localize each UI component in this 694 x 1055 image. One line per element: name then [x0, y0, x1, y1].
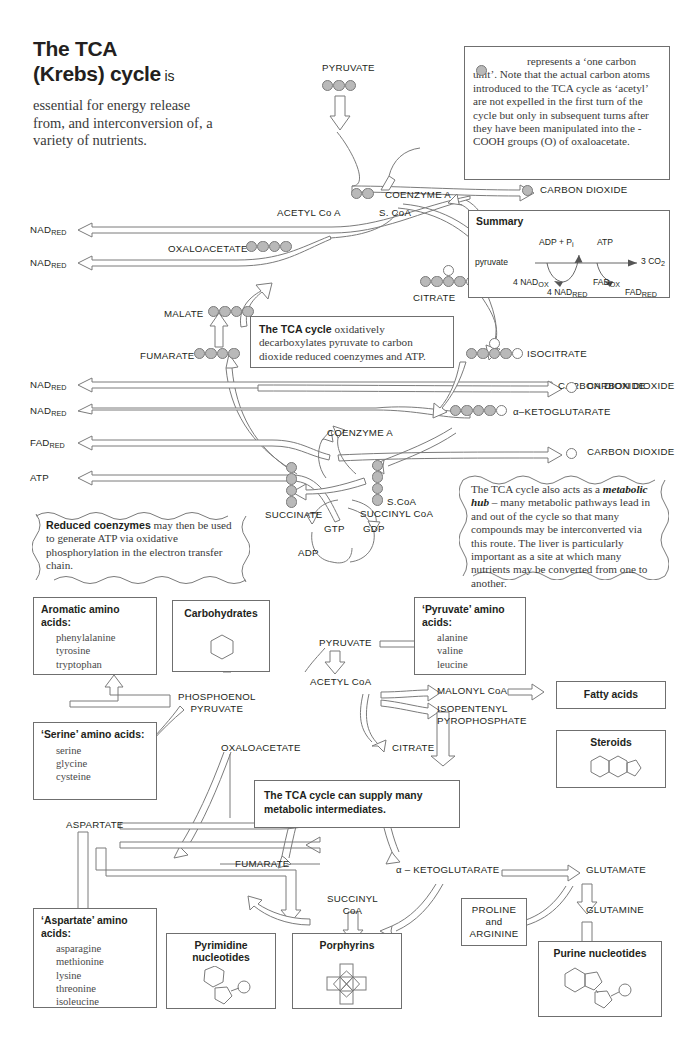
- label-malate: MALATE: [164, 308, 204, 319]
- summary-adp: ADP + Pi: [539, 237, 574, 249]
- decarb-note-bold: The TCA cycle: [259, 323, 332, 335]
- carbons-fumarate: [194, 348, 240, 359]
- steroids-head: Steroids: [557, 731, 665, 749]
- label-co2-mid-text: CARBON DIOXIDE: [587, 380, 674, 391]
- label-s-coa: S.CoA: [387, 496, 416, 507]
- metabolic-hub-note-box: The TCA cycle also acts as a metabolic h…: [459, 470, 669, 580]
- box-fatty-acids: Fatty acids: [556, 681, 666, 709]
- hub-note-pre: The TCA cycle also acts as a: [471, 483, 603, 495]
- reduced-coenzymes-note-box: Reduced coenzymes may then be used to ge…: [32, 508, 250, 584]
- carbon-co2-low: [566, 445, 577, 463]
- cofactor-label-4: NADRED: [30, 405, 66, 418]
- box-purine-nucleotides: Purine nucleotides: [538, 941, 662, 1017]
- label-co2-top: CARBON DIOXIDE: [540, 184, 627, 195]
- serine-aa-head: ‘Serine’ amino acids:: [34, 723, 156, 744]
- carbon-co2-top: [522, 182, 533, 200]
- reduced-note-bold: Reduced coenzymes: [46, 519, 151, 531]
- label-gtp: GTP: [324, 523, 345, 534]
- label-glutamine: GLUTAMINE: [586, 904, 644, 915]
- label-succinyl-coa: SUCCINYL CoA: [360, 508, 433, 519]
- carbons-oxaloacetate: [246, 241, 292, 252]
- carbons-acetyl: [351, 188, 374, 199]
- carbons-malate: [208, 306, 254, 317]
- pyruvate-aa-list: alanine valine leucine: [415, 631, 525, 671]
- label-fumarate: FUMARATE: [140, 350, 195, 361]
- label-isopentenyl: ISOPENTENYL PYROPHOSPHATE: [437, 703, 527, 726]
- label-co2-low: CARBON DIOXIDE: [587, 446, 674, 457]
- label-isocitrate: ISOCITRATE: [527, 348, 587, 359]
- cofactor-label-2: NADRED: [30, 257, 66, 270]
- label-pyruvate-top: PYRUVATE: [322, 62, 375, 73]
- label-lower-ketoglutarate: α – KETOGLUTARATE: [396, 864, 500, 875]
- cofactor-label-3: NADRED: [30, 379, 66, 392]
- proline-arginine-head: PROLINE and ARGININE: [470, 904, 519, 940]
- carbons-succinate: [286, 462, 297, 508]
- box-pyruvate-amino-acids: ‘Pyruvate’ amino acids: alanine valine l…: [414, 597, 526, 675]
- pyrimidine-structure-icon: [167, 966, 277, 1010]
- box-aromatic-amino-acids: Aromatic amino acids: phenylalanine tyro…: [33, 597, 157, 675]
- cofactor-label-5: FADRED: [30, 437, 65, 450]
- label-aspartate: ASPARTATE: [66, 819, 124, 830]
- porphyrins-head: Porphyrins: [293, 934, 401, 952]
- summary-box: Summary pyruvate 3 CO2 ADP + Pi ATP 4 NA…: [468, 210, 670, 298]
- label-lower-citrate: CITRATE: [392, 742, 434, 753]
- decarboxylation-note-box: The TCA cycle oxidatively decarboxylates…: [250, 316, 454, 368]
- label-ketoglutarate: α–KETOGLUTARATE: [513, 406, 611, 417]
- box-aspartate-amino-acids: ‘Aspartate’ amino acids: asparagine meth…: [33, 908, 157, 1008]
- box-carbohydrates: Carbohydrates: [172, 600, 270, 672]
- summary-arrows: [469, 211, 671, 299]
- hub-note-rest: – many metabolic pathways lead in and ou…: [471, 496, 650, 588]
- box-pyrimidine-nucleotides: Pyrimidine nucleotides: [166, 933, 276, 1009]
- summary-atp: ATP: [597, 237, 613, 247]
- label-lower-acetyl-coa: ACETYL CoA: [310, 676, 371, 687]
- aromatic-head: Aromatic amino acids:: [34, 598, 156, 631]
- steroid-rings-icon: [557, 755, 667, 789]
- purine-structure-icon: [539, 964, 663, 1014]
- carbohydrates-head: Carbohydrates: [173, 601, 269, 620]
- label-malonyl-coa: MALONYL CoA: [437, 685, 507, 696]
- label-succinate: SUCCINATE: [265, 509, 323, 520]
- label-oxaloacetate: OXALOACETATE: [168, 243, 248, 254]
- page-title: The TCA (Krebs) cycle is: [33, 36, 233, 89]
- label-acetyl-coa: ACETYL Co A: [277, 207, 341, 218]
- summary-nadox: 4 NADOX: [513, 277, 549, 289]
- porphyrin-ring-icon: [293, 958, 403, 1010]
- summary-nadred: 4 NADRED: [547, 287, 588, 299]
- carbon-unit-icon: [476, 65, 487, 76]
- label-glutamate: GLUTAMATE: [586, 864, 646, 875]
- carbons-succinyl: [372, 460, 383, 506]
- legend-note-text: represents a ‘one carbon unit’. Note tha…: [473, 55, 661, 149]
- label-lower-fumarate: FUMARATE: [235, 858, 290, 869]
- box-porphyrins: Porphyrins: [292, 933, 402, 1009]
- legend-note-box: represents a ‘one carbon unit’. Note tha…: [464, 46, 670, 180]
- carbons-ketoglutarate: [450, 405, 507, 416]
- label-coenzyme-a-top: COENZYME A: [385, 189, 451, 200]
- serine-aa-list: serine glycine cysteine: [34, 744, 156, 784]
- fatty-acids-head: Fatty acids: [584, 689, 638, 701]
- summary-substrate: pyruvate: [475, 257, 508, 267]
- purine-head: Purine nucleotides: [539, 942, 661, 960]
- summary-product: 3 CO2: [641, 256, 665, 268]
- box-proline-arginine: PROLINE and ARGININE: [461, 898, 527, 946]
- carbon-co2-mid: [566, 379, 577, 397]
- label-pep: PHOSPHOENOL PYRUVATE: [178, 691, 256, 714]
- tca-supply-text: The TCA cycle can supply many metabolic …: [255, 781, 459, 825]
- box-steroids: Steroids: [556, 730, 666, 788]
- box-serine-amino-acids: ‘Serine’ amino acids: serine glycine cys…: [33, 722, 157, 800]
- carbons-pyruvate: [322, 80, 356, 91]
- pyrimidine-head: Pyrimidine nucleotides: [167, 934, 275, 965]
- carbons-isocitrate: [466, 348, 523, 359]
- aromatic-list: phenylalanine tyrosine tryptophan: [34, 631, 156, 671]
- cofactor-label-6: ATP: [30, 472, 49, 483]
- intro-paragraph: essential for energy release from, and i…: [33, 97, 223, 150]
- label-citrate: CITRATE: [413, 292, 455, 303]
- label-coenzyme-a-mid: COENZYME A: [327, 427, 393, 438]
- label-gdp: GDP: [363, 523, 385, 534]
- cofactor-label-1: NADRED: [30, 224, 66, 237]
- label-lower-pyruvate: PYRUVATE: [319, 637, 372, 648]
- summary-fadred: FADRED: [625, 287, 657, 299]
- hexagon-sugar-icon: [173, 627, 271, 667]
- label-adp: ADP: [298, 547, 319, 558]
- box-tca-supply-note: The TCA cycle can supply many metabolic …: [254, 780, 460, 828]
- aspartate-aa-head: ‘Aspartate’ amino acids:: [34, 909, 156, 942]
